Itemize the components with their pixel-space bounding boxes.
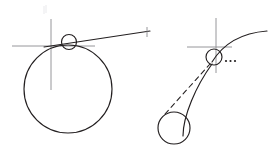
diagram-canvas <box>0 0 269 159</box>
geometry-figure <box>0 0 269 159</box>
canvas-background <box>0 0 269 159</box>
right-ellipsis-marker <box>225 60 236 62</box>
